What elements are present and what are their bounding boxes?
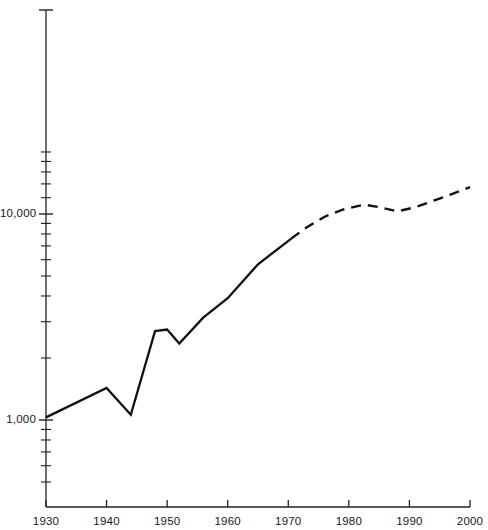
x-axis-tick-label: 1940 (82, 516, 132, 528)
y-axis-tick-label: 1,000 (0, 414, 36, 426)
x-axis-tick-label: 2000 (445, 516, 488, 528)
x-axis-tick-label: 1930 (21, 516, 71, 528)
x-axis-tick-label: 1990 (384, 516, 434, 528)
x-axis-tick-label: 1980 (324, 516, 374, 528)
data-line-observed (46, 239, 291, 418)
y-axis-tick-label: 10,000 (0, 208, 36, 220)
x-axis-tick-label: 1950 (142, 516, 192, 528)
data-series-layer (46, 187, 470, 417)
data-line-projected (291, 187, 470, 238)
x-axis-tick-label: 1970 (263, 516, 313, 528)
x-axis-tick-marks (46, 500, 470, 507)
x-axis-tick-label: 1960 (203, 516, 253, 528)
